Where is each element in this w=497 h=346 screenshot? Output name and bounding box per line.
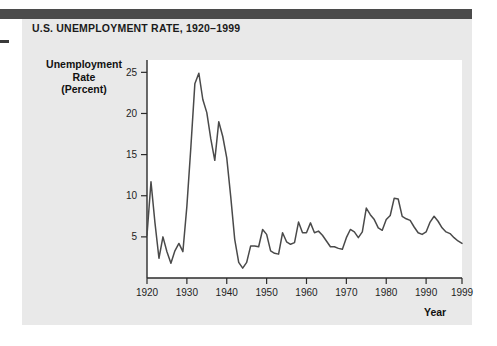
x-tick-label: 1999 [451,287,474,298]
y-tick-label: 20 [126,108,138,119]
x-axis-ticks: 192019301940195019601970198019901999 [136,278,474,298]
x-tick-label: 1940 [216,287,239,298]
x-tick-label: 1980 [375,287,398,298]
x-tick-label: 1930 [176,287,199,298]
x-tick-label: 1920 [136,287,159,298]
y-tick-label: 10 [126,190,138,201]
y-tick-label: 25 [126,67,138,78]
figure-container: U.S. UNEMPLOYMENT RATE, 1920–1999 Unempl… [0,0,497,346]
y-axis-ticks: 510152025 [126,67,147,243]
x-tick-label: 1970 [335,287,358,298]
x-tick-label: 1990 [415,287,438,298]
x-tick-label: 1960 [295,287,318,298]
x-tick-label: 1950 [255,287,278,298]
plot-svg: 510152025 192019301940195019601970198019… [0,0,497,346]
y-tick-label: 15 [126,149,138,160]
y-tick-label: 5 [131,231,137,242]
